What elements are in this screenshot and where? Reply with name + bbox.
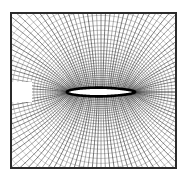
- upstream-inflow-blank-region: [12, 82, 32, 102]
- body-outline: [67, 88, 135, 97]
- mesh-figure: [0, 0, 190, 185]
- mesh-plot-canvas: [0, 0, 190, 185]
- slender-ellipse-body: [67, 88, 135, 97]
